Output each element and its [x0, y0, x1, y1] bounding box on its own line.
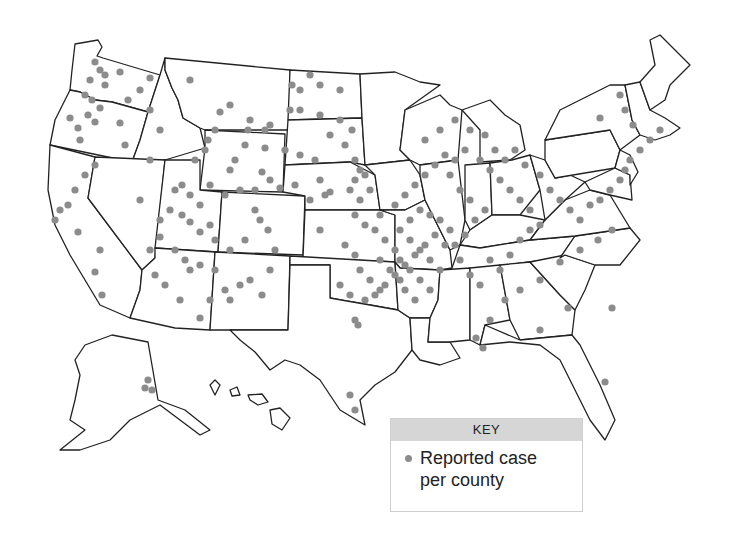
case-dot: [136, 196, 143, 203]
case-dot: [608, 226, 615, 233]
case-dot: [148, 386, 155, 393]
case-dot: [211, 236, 218, 243]
case-dot: [496, 176, 503, 183]
case-dot: [316, 176, 323, 183]
case-dot: [186, 191, 193, 198]
case-dot: [266, 176, 273, 183]
case-dot: [626, 156, 633, 163]
case-dot: [81, 171, 88, 178]
case-dot: [91, 268, 98, 275]
case-dot: [66, 114, 73, 121]
case-dot: [116, 119, 123, 126]
case-dot: [516, 286, 523, 293]
case-dot: [351, 156, 358, 163]
case-dot: [101, 81, 108, 88]
case-dot: [371, 291, 378, 298]
case-dot: [211, 266, 218, 273]
case-dot: [461, 231, 468, 238]
case-dot: [276, 184, 283, 191]
case-dot: [616, 91, 623, 98]
case-dot: [251, 186, 258, 193]
case-dot: [316, 111, 323, 118]
case-dot: [136, 86, 143, 93]
case-dot: [211, 126, 218, 133]
case-dot: [516, 236, 523, 243]
case-dot: [146, 156, 153, 163]
case-dot: [146, 246, 153, 253]
case-dot: [536, 276, 543, 283]
case-dot: [116, 68, 123, 75]
case-dot: [601, 378, 608, 385]
case-dot: [74, 228, 81, 235]
case-dot: [196, 201, 203, 208]
case-dot: [341, 241, 348, 248]
case-dot: [306, 196, 313, 203]
case-dot: [526, 226, 533, 233]
case-dot: [221, 286, 228, 293]
case-dot: [461, 146, 468, 153]
case-dot: [191, 156, 198, 163]
case-dot: [361, 296, 368, 303]
case-dot: [258, 291, 265, 298]
case-dot: [466, 126, 473, 133]
case-dot: [151, 271, 158, 278]
case-dot: [566, 206, 573, 213]
case-dot: [251, 206, 258, 213]
case-dot: [486, 166, 493, 173]
case-dot: [426, 256, 433, 263]
case-dot: [391, 271, 398, 278]
case-dot: [401, 191, 408, 198]
case-dot: [51, 216, 58, 223]
case-dot: [556, 258, 563, 265]
case-dot: [166, 206, 173, 213]
case-dot: [91, 118, 98, 125]
case-dot: [216, 108, 223, 115]
case-dot: [491, 146, 498, 153]
case-dot: [656, 126, 663, 133]
case-dot: [156, 216, 163, 223]
case-dot: [446, 171, 453, 178]
case-dot: [196, 314, 203, 321]
case-dot: [411, 251, 418, 258]
case-dot: [84, 111, 91, 118]
case-dot: [271, 246, 278, 253]
case-dot: [201, 146, 208, 153]
case-dot: [346, 186, 353, 193]
case-dot: [348, 126, 355, 133]
case-dot: [486, 316, 493, 323]
case-dot: [436, 216, 443, 223]
case-dot: [361, 221, 368, 228]
case-dot: [221, 191, 228, 198]
case-dot: [479, 344, 486, 351]
case-dot: [121, 141, 128, 148]
case-dot: [376, 211, 383, 218]
case-dot: [236, 186, 243, 193]
case-dot: [266, 121, 273, 128]
case-dot: [296, 86, 303, 93]
case-dot: [621, 106, 628, 113]
case-dot: [56, 206, 63, 213]
case-dot: [511, 146, 518, 153]
case-dot: [336, 116, 343, 123]
case-dot: [421, 136, 428, 143]
case-dot: [526, 206, 533, 213]
case-dot: [354, 321, 361, 328]
case-dot: [81, 91, 88, 98]
case-dot: [391, 201, 398, 208]
case-dot: [76, 136, 83, 143]
case-dot: [88, 96, 95, 103]
case-dot: [586, 201, 593, 208]
case-dot: [411, 181, 418, 188]
case-dot: [186, 266, 193, 273]
case-dot: [466, 196, 473, 203]
case-dot: [366, 276, 373, 283]
case-dot: [124, 96, 131, 103]
case-dot: [431, 231, 438, 238]
legend-item: Reported case per county: [391, 441, 582, 491]
case-dot: [646, 136, 653, 143]
case-dot: [281, 146, 288, 153]
case-dot: [178, 181, 185, 188]
case-dot: [146, 106, 153, 113]
case-dot: [629, 121, 636, 128]
case-dot: [86, 76, 93, 83]
